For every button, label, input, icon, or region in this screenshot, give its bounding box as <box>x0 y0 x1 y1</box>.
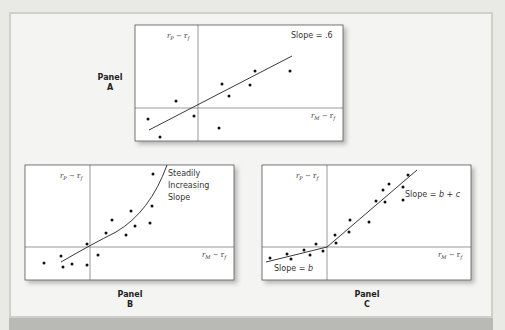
panel-c-chart: rP − rf rM − rf Slope = b Slope = b + c <box>262 165 471 280</box>
panel-b-annotation-line3: Slope <box>168 193 190 202</box>
panel-c-slope-b-annotation: Slope = b <box>274 264 313 273</box>
panel-b-annotation-line2: Increasing <box>168 181 209 190</box>
panel-b-chart: rP − rf rM − rf Steadily Increasing Slop… <box>25 165 234 280</box>
panel-a-chart: rP − rf rM − rf Slope = .6 <box>135 25 343 141</box>
panel-c-box <box>262 165 471 280</box>
panel-c-slope-bc-annotation: Slope = b + c <box>405 190 461 199</box>
panel-b-annotation-line1: Steadily <box>168 169 201 178</box>
charts-svg: rP − rf rM − rf Slope = .6 rP − rf rM − … <box>0 0 505 330</box>
panel-a-slope-annotation: Slope = .6 <box>291 31 333 40</box>
